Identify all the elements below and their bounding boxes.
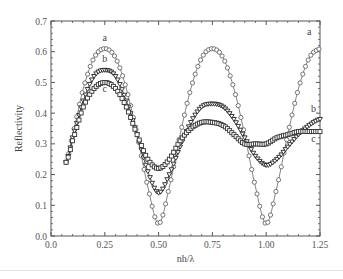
data-point — [274, 189, 278, 193]
curve-label-a: a — [103, 32, 108, 43]
data-point — [298, 81, 302, 85]
data-point — [180, 125, 184, 129]
data-point — [301, 72, 305, 76]
x-tick-label: 0.50 — [150, 240, 167, 250]
data-point — [91, 58, 95, 62]
data-point — [182, 113, 186, 117]
data-point — [163, 202, 167, 206]
data-point — [225, 66, 229, 70]
data-point — [268, 213, 272, 217]
data-point — [145, 180, 149, 184]
data-point — [129, 116, 133, 120]
data-point — [174, 146, 178, 150]
data-point — [150, 204, 154, 208]
data-point — [79, 111, 83, 115]
data-point — [115, 59, 119, 63]
data-point — [228, 74, 232, 78]
data-point — [73, 133, 77, 137]
curve-label-c: c — [103, 83, 108, 94]
data-point — [303, 64, 307, 68]
data-point — [133, 127, 137, 131]
y-tick-label: 0.2 — [35, 170, 47, 180]
data-point — [150, 181, 155, 185]
curve-label-a: a — [307, 26, 312, 37]
data-point — [143, 163, 148, 167]
data-point — [85, 72, 89, 76]
y-tick-label: 0.4 — [35, 109, 47, 119]
y-axis-title: Reflectivity — [13, 105, 24, 152]
y-tick-label: 0.5 — [35, 78, 47, 88]
data-point — [247, 154, 251, 158]
divider — [0, 270, 343, 271]
data-point — [126, 110, 130, 114]
data-point — [236, 103, 240, 107]
data-point — [75, 125, 79, 129]
data-point — [318, 130, 322, 134]
data-point — [137, 138, 141, 142]
data-point — [255, 192, 259, 196]
y-tick-label: 0.7 — [35, 17, 47, 27]
plot-frame — [51, 21, 320, 236]
data-point — [276, 178, 280, 182]
data-point — [123, 83, 127, 87]
x-tick-label: 1.00 — [258, 240, 275, 250]
x-tick-label: 0.25 — [96, 240, 113, 250]
data-point — [115, 78, 120, 82]
data-point — [83, 100, 87, 104]
data-point — [250, 167, 254, 171]
data-point — [293, 101, 297, 105]
data-point — [153, 215, 157, 219]
data-point — [306, 58, 310, 62]
series-layer — [64, 47, 323, 226]
data-point — [193, 72, 197, 76]
y-tick-label: 0.1 — [35, 201, 47, 211]
data-point — [287, 125, 291, 129]
data-point — [260, 215, 264, 219]
y-tick-label: 0.3 — [35, 139, 47, 149]
data-point — [81, 105, 85, 109]
data-point — [188, 90, 192, 94]
curve-label-b: b — [102, 53, 107, 64]
data-point — [83, 81, 87, 85]
data-point — [118, 66, 122, 70]
data-point — [120, 74, 124, 78]
x-axis-title: nh/λ — [177, 253, 195, 264]
data-point — [87, 82, 92, 86]
data-point — [117, 83, 122, 87]
data-point — [131, 121, 135, 125]
curve-label-b: b — [311, 103, 316, 114]
data-point — [271, 202, 275, 206]
data-point — [290, 113, 294, 117]
data-point — [163, 183, 168, 187]
data-point — [64, 160, 68, 164]
data-point — [148, 176, 153, 180]
data-point — [188, 121, 193, 125]
data-point — [120, 96, 124, 100]
data-point — [77, 118, 81, 122]
data-point — [139, 143, 143, 147]
x-tick-label: 0.0 — [45, 240, 57, 250]
data-point — [285, 138, 289, 142]
data-point — [295, 90, 299, 94]
data-point — [173, 156, 178, 160]
data-point — [122, 101, 126, 105]
data-point — [252, 180, 256, 184]
y-tick-label: 0.0 — [35, 232, 47, 242]
data-point — [191, 117, 196, 121]
data-point — [158, 220, 162, 224]
data-point — [185, 101, 189, 105]
data-point — [172, 150, 176, 154]
data-point — [145, 170, 150, 174]
reflectivity-chart: 0.00.250.500.751.001.25 0.00.10.20.30.40… — [0, 0, 343, 279]
curve-label-c: c — [311, 133, 316, 144]
data-point — [85, 87, 90, 91]
data-point — [142, 149, 146, 153]
x-tick-label: 1.25 — [312, 240, 329, 250]
y-tick-label: 0.6 — [35, 47, 47, 57]
data-point — [231, 83, 235, 87]
data-point — [258, 204, 262, 208]
x-tick-label: 0.75 — [204, 240, 221, 250]
data-point — [124, 105, 128, 109]
data-point — [198, 58, 202, 62]
data-point — [166, 189, 170, 193]
